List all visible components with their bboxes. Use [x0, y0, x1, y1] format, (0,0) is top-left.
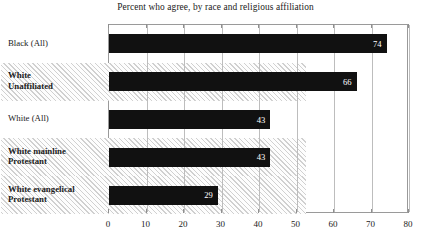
x-tick-bottom: [221, 209, 222, 213]
x-tick-top: [183, 24, 184, 28]
bar-value-label: 74: [373, 40, 382, 49]
x-tick-bottom: [183, 209, 184, 213]
x-tick-bottom: [296, 209, 297, 213]
plot-area: 7466434329: [108, 24, 408, 213]
bar-value-label: 66: [343, 77, 352, 86]
category-label: White mainline Protestant: [8, 146, 104, 167]
x-tick-label: 70: [366, 219, 375, 229]
x-tick-label: 50: [291, 219, 300, 229]
x-tick-bottom: [371, 209, 372, 213]
category-label: White (All): [8, 113, 104, 124]
x-tick-bottom: [258, 209, 259, 213]
chart-title: Percent who agree, by race and religious…: [0, 2, 431, 12]
x-tick-label: 0: [106, 219, 111, 229]
bar[interactable]: 29: [109, 186, 218, 205]
x-tick-bottom: [408, 209, 409, 213]
x-tick-top: [333, 24, 334, 28]
category-label: White evangelical Protestant: [8, 184, 104, 205]
x-tick-bottom: [146, 209, 147, 213]
bar[interactable]: 43: [109, 148, 270, 167]
x-tick-top: [108, 24, 109, 28]
x-tick-top: [221, 24, 222, 28]
category-label: Black (All): [8, 38, 104, 49]
x-tick-top: [296, 24, 297, 28]
category-label: White Unaffiliated: [8, 70, 104, 91]
x-tick-label: 30: [216, 219, 225, 229]
x-tick-top: [371, 24, 372, 28]
x-tick-top: [408, 24, 409, 28]
bar-value-label: 43: [257, 153, 266, 162]
bar[interactable]: 74: [109, 34, 387, 53]
chart-figure: Percent who agree, by race and religious…: [0, 0, 431, 249]
x-tick-label: 60: [329, 219, 338, 229]
x-tick-label: 20: [179, 219, 188, 229]
x-tick-top: [146, 24, 147, 28]
gridline: [409, 25, 410, 212]
bar-value-label: 29: [204, 191, 213, 200]
bar[interactable]: 43: [109, 110, 270, 129]
x-tick-label: 80: [404, 219, 413, 229]
bar[interactable]: 66: [109, 72, 357, 91]
x-tick-bottom: [108, 209, 109, 213]
x-tick-top: [258, 24, 259, 28]
bar-value-label: 43: [257, 115, 266, 124]
x-tick-label: 40: [254, 219, 263, 229]
x-tick-label: 10: [141, 219, 150, 229]
x-tick-bottom: [333, 209, 334, 213]
